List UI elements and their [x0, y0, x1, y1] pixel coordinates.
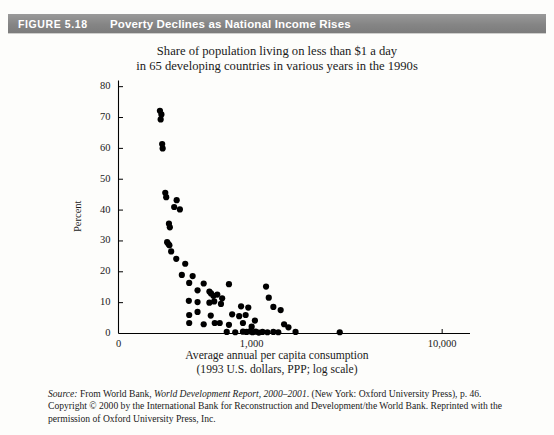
data-point — [252, 317, 258, 323]
data-point — [194, 309, 200, 315]
data-point — [201, 280, 207, 286]
chart-title: Share of population living on less than … — [0, 44, 554, 74]
data-point — [159, 141, 165, 147]
y-tick-label: 40 — [85, 204, 111, 215]
data-point — [292, 329, 298, 335]
data-point — [240, 320, 246, 326]
y-axis-title: Percent — [72, 201, 83, 233]
data-point — [182, 261, 188, 267]
data-point — [247, 328, 253, 334]
plot-ticks — [119, 87, 443, 334]
data-point — [190, 273, 196, 279]
data-point — [211, 298, 217, 304]
data-point — [208, 313, 214, 319]
x-axis-title-line-2: (1993 U.S. dollars, PPP; log scale) — [0, 363, 554, 377]
y-tick-label: 50 — [85, 173, 111, 184]
source-publication: World Development Report, 2000–2001 — [154, 388, 307, 399]
y-tick-label: 0 — [85, 327, 111, 338]
chart-title-line-1: Share of population living on less than … — [0, 44, 554, 59]
x-tick-label: 1,000 — [222, 338, 282, 349]
data-point — [270, 329, 276, 335]
data-point — [206, 300, 212, 306]
data-point — [226, 322, 232, 328]
y-tick-label: 30 — [85, 234, 111, 245]
data-point — [240, 329, 246, 335]
data-point — [229, 311, 235, 317]
data-point — [177, 206, 183, 212]
data-point — [174, 197, 180, 203]
y-tick-label: 70 — [85, 111, 111, 122]
data-point — [186, 298, 192, 304]
figure-title-label: Poverty Declines as National Income Rise… — [110, 18, 351, 30]
y-tick-label: 60 — [85, 142, 111, 153]
data-point — [186, 280, 192, 286]
x-tick-label: 10,000 — [412, 338, 472, 349]
data-point — [259, 329, 265, 335]
data-point — [337, 329, 343, 335]
data-point — [194, 287, 200, 293]
data-point — [208, 290, 214, 296]
figure-number-label: FIGURE 5.18 — [18, 18, 110, 30]
data-point — [285, 324, 291, 330]
data-point — [186, 312, 192, 318]
x-tick-label: 0 — [89, 338, 149, 349]
x-axis-title-line-1: Average annual per capita consumption — [0, 349, 554, 363]
data-point — [278, 307, 284, 313]
data-point — [163, 194, 169, 200]
data-point — [243, 329, 249, 335]
source-text-a: From World Bank, — [77, 388, 154, 399]
data-point — [171, 204, 177, 210]
data-points — [157, 108, 343, 336]
data-point — [206, 288, 212, 294]
data-point — [264, 329, 270, 335]
y-tick-label: 10 — [85, 296, 111, 307]
data-point — [249, 329, 255, 335]
data-point — [166, 221, 172, 227]
y-tick-label: 80 — [85, 80, 111, 91]
data-point — [165, 241, 171, 247]
data-point — [162, 190, 168, 196]
data-point — [224, 329, 230, 335]
data-point — [245, 304, 251, 310]
data-point — [212, 320, 218, 326]
data-point — [266, 295, 272, 301]
data-point — [270, 304, 276, 310]
data-point — [157, 108, 163, 114]
data-point — [194, 299, 200, 305]
data-point — [160, 145, 166, 151]
source-note: Source: From World Bank, World Developme… — [48, 388, 514, 425]
data-point — [232, 329, 238, 335]
data-point — [275, 329, 281, 335]
data-point — [281, 321, 287, 327]
plot-axes — [119, 81, 471, 334]
data-point — [179, 272, 185, 278]
data-point — [210, 293, 216, 299]
data-point — [186, 320, 192, 326]
data-point — [218, 301, 224, 307]
data-point — [201, 321, 207, 327]
data-point — [226, 281, 232, 287]
data-point — [158, 111, 164, 117]
data-point — [166, 242, 172, 248]
data-point — [158, 116, 164, 122]
source-label: Source: — [48, 388, 77, 399]
chart-title-line-2: in 65 developing countries in various ye… — [0, 59, 554, 74]
data-point — [238, 303, 244, 309]
data-point — [214, 292, 220, 298]
data-point — [243, 312, 249, 318]
data-point — [217, 320, 223, 326]
y-tick-label: 20 — [85, 265, 111, 276]
data-point — [173, 256, 179, 262]
figure-page: FIGURE 5.18 Poverty Declines as National… — [0, 0, 554, 435]
x-axis-title: Average annual per capita consumption (1… — [0, 349, 554, 377]
data-point — [167, 224, 173, 230]
figure-header-bar: FIGURE 5.18 Poverty Declines as National… — [8, 14, 546, 33]
data-point — [249, 324, 255, 330]
data-point — [263, 284, 269, 290]
data-point — [219, 295, 225, 301]
data-point — [253, 329, 259, 335]
data-point — [256, 329, 262, 335]
data-point — [236, 313, 242, 319]
data-point — [164, 239, 170, 245]
data-point — [168, 248, 174, 254]
